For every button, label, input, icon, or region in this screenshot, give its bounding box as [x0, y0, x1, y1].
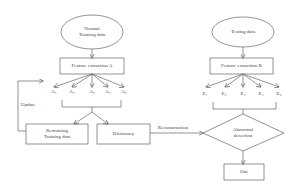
normal-training-data-label: Normal Training data [62, 26, 122, 38]
testing-data-label: Testing data [213, 29, 273, 35]
feature-a4: A₄ [102, 89, 114, 95]
feature-a-bracket [62, 100, 121, 107]
feature-a5: A₅ [118, 89, 130, 95]
feature-e2: E₂ [218, 91, 230, 97]
flowchart-diagram: Normal Training data Feature extraction … [0, 0, 299, 189]
abnormal-detection-label: Abnormal detection [218, 127, 268, 139]
feature-extraction-b-label: Feature extraction B [210, 63, 273, 69]
update-label: Update [18, 102, 38, 108]
feature-a1: A₁ [48, 89, 60, 95]
feature-extraction-a-label: Feature extraction A [60, 63, 124, 69]
out-label: Out [224, 169, 264, 175]
dictionary-label: Dictionary [97, 131, 150, 137]
feature-a2: A₂ [66, 89, 78, 95]
reconstruction-label: Reconstruction [151, 125, 195, 131]
feature-e4: E₄ [255, 91, 267, 97]
feature-e1: E₁ [199, 91, 211, 97]
feature-a3: A₃ [86, 89, 98, 95]
feature-e3: E₃ [237, 91, 249, 97]
feature-b-bracket [213, 102, 276, 109]
feature-e5: E₅ [273, 91, 285, 97]
remaining-training-data-label: Remaining Training data [26, 128, 88, 140]
